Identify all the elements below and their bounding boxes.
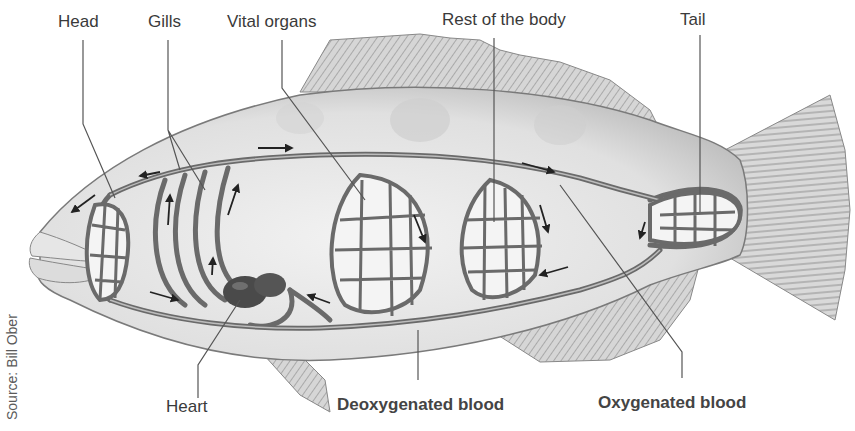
label-gills: Gills (148, 13, 181, 30)
label-rest-of-body: Rest of the body (442, 11, 566, 28)
source-credit: Source: Bill Ober (4, 314, 20, 420)
label-head: Head (58, 13, 99, 30)
label-tail: Tail (680, 11, 706, 28)
label-vital-organs: Vital organs (227, 13, 316, 30)
label-deoxygenated-blood: Deoxygenated blood (337, 396, 504, 413)
label-heart: Heart (166, 398, 208, 415)
capillary-bed-head (87, 204, 128, 300)
label-oxygenated-blood: Oxygenated blood (598, 394, 746, 411)
fish-circulation-diagram: Head Gills Vital organs Rest of the body… (0, 0, 855, 431)
fish-illustration (0, 0, 855, 431)
